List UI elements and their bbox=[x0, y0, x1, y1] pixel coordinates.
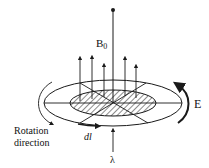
dl-label: dl bbox=[84, 131, 92, 142]
axis-dot-icon bbox=[111, 8, 115, 12]
rotation-label-line2: direction bbox=[14, 137, 50, 148]
lambda-label: λ bbox=[110, 154, 115, 165]
b0-label: B0 bbox=[96, 37, 107, 51]
e-field-arrow-icon bbox=[178, 85, 189, 123]
e-label: E bbox=[194, 97, 201, 111]
diagram-canvas: B0 E dl λ Rotation direction bbox=[0, 0, 209, 168]
rotation-label-line1: Rotation bbox=[14, 125, 48, 136]
